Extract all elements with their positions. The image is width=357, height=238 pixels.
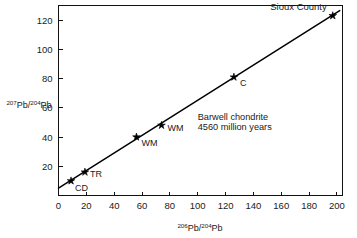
x-tick-label: 140 xyxy=(245,200,261,211)
x-tick-label: 40 xyxy=(109,200,120,211)
sioux-county-label: Sioux County xyxy=(270,1,327,12)
y-axis-title: 207Pb/204Pb xyxy=(6,99,51,111)
x-tick-label: 120 xyxy=(218,200,234,211)
isochron-chart-svg: 020406080100120140160180200 204060801001… xyxy=(0,0,357,238)
y-tick-label: 80 xyxy=(42,73,53,84)
x-tick-label: 20 xyxy=(81,200,92,211)
x-tick-label: 180 xyxy=(301,200,317,211)
data-point-label: WM xyxy=(168,123,184,133)
x-axis-tick-labels: 020406080100120140160180200 xyxy=(56,200,345,211)
y-tick-label: 40 xyxy=(42,132,53,143)
annotation-line: 4560 million years xyxy=(198,122,272,132)
x-tick-label: 100 xyxy=(190,200,206,211)
y-tick-label: 120 xyxy=(37,15,53,26)
annotation-text-block: Barwell chondrite4560 million years xyxy=(198,112,272,132)
x-tick-label: 60 xyxy=(137,200,148,211)
x-axis-title: 206Pb/204Pb xyxy=(177,222,222,234)
data-point-label: C xyxy=(240,78,247,88)
x-tick-label: 160 xyxy=(273,200,289,211)
plot-frame xyxy=(59,6,343,196)
x-tick-label: 0 xyxy=(56,200,61,211)
data-point-label: CD xyxy=(75,183,88,193)
annotation-line: Barwell chondrite xyxy=(198,112,268,122)
x-tick-label: 200 xyxy=(329,200,345,211)
y-tick-label: 20 xyxy=(42,161,53,172)
x-tick-label: 80 xyxy=(165,200,176,211)
y-tick-label: 100 xyxy=(37,44,53,55)
data-point-label: TR xyxy=(90,169,102,179)
isochron-figure: 020406080100120140160180200 204060801001… xyxy=(0,0,357,238)
y-axis-tick-labels: 20406080100120 xyxy=(37,15,53,172)
data-point-label: WM xyxy=(141,138,157,148)
